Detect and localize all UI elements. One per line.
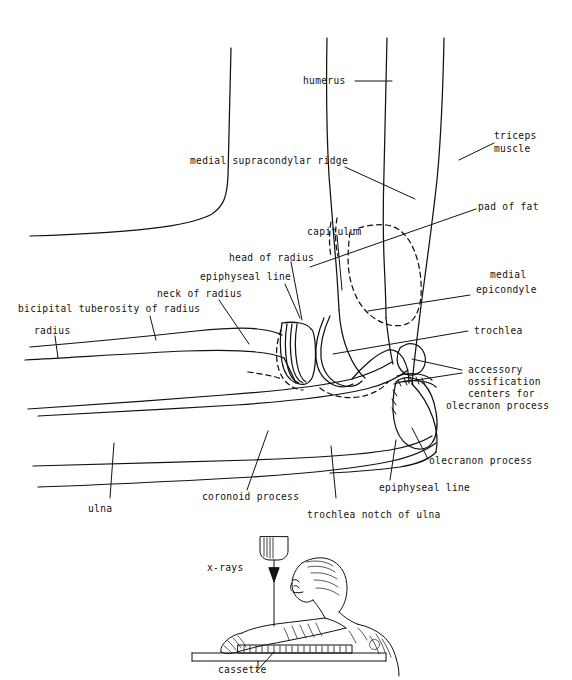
figure-linework	[0, 0, 572, 680]
leader-trochlea	[333, 331, 468, 354]
label-epiphyseal-line-upper: epiphyseal line	[200, 271, 291, 283]
accessory-ossification-center-upper	[397, 344, 425, 376]
distal-humerus-anterior	[339, 310, 365, 378]
central-ray-arrowhead	[269, 568, 279, 582]
leader-ulna	[110, 443, 114, 498]
label-accessory-line2: ossification	[468, 376, 541, 388]
forearm-soft-tissue-upper	[33, 436, 432, 466]
triceps-outer-border	[412, 38, 444, 384]
leader-accessory-1	[412, 359, 462, 370]
leader-trochlea-notch	[331, 446, 336, 498]
leader-pad-of-fat	[310, 209, 476, 267]
patient-clavicle	[325, 618, 346, 628]
patient-neck-back	[339, 612, 357, 624]
patient-face-profile	[292, 563, 313, 602]
label-humerus: humerus	[303, 75, 346, 87]
label-head-of-radius: head of radius	[229, 252, 314, 264]
arm-upper-border	[242, 618, 325, 633]
label-capitulum: capitulum	[307, 226, 362, 238]
leader-medial-supracondylar-ridge	[345, 167, 415, 199]
coronoid-process-outline	[352, 350, 388, 379]
cassette-plate	[238, 645, 352, 653]
label-trochlea-notch-of-ulna: trochlea notch of ulna	[307, 509, 441, 521]
cassette-ridges	[244, 646, 346, 652]
label-coronoid-process: coronoid process	[202, 491, 299, 503]
leader-lines	[55, 81, 494, 498]
xray-tube-hatching	[264, 538, 273, 558]
inset-illustration	[192, 537, 399, 676]
leader-radius	[55, 336, 58, 358]
label-accessory-line4: olecranon process	[446, 400, 549, 412]
label-pad-of-fat: pad of fat	[478, 201, 539, 213]
label-cassette: cassette	[218, 664, 267, 676]
label-medial-epicondyle-line1: medial	[490, 269, 526, 281]
elbow-anatomy-figure: humerus triceps muscle medial supracondy…	[0, 0, 572, 680]
leader-bicipital-tuberosity	[150, 316, 156, 340]
label-trochlea: trochlea	[474, 325, 523, 337]
deltoid-mark	[370, 640, 380, 650]
label-olecranon-process: olecranon process	[429, 455, 532, 467]
patient-hair-strokes	[306, 561, 339, 595]
ulna-posterior-cortex	[38, 370, 408, 416]
hand-outline	[221, 633, 242, 652]
patient-neck-front	[313, 600, 325, 618]
patient-mouth	[293, 592, 303, 593]
label-x-rays: x-rays	[207, 562, 243, 574]
anterior-soft-tissue-border	[30, 48, 231, 236]
leader-neck-of-radius	[219, 300, 249, 344]
arm-lower-border	[260, 628, 346, 646]
leader-triceps	[459, 143, 494, 160]
radius-inferior-cortex	[25, 350, 284, 360]
ulna-anterior-cortex	[28, 362, 392, 409]
label-medial-epicondyle-line2: epicondyle	[476, 284, 537, 296]
humerus-posterior-cortex	[383, 38, 387, 318]
label-triceps-muscle-line2: muscle	[494, 143, 530, 155]
patient-brow	[293, 580, 299, 582]
forearm-soft-tissue-lower	[38, 443, 436, 487]
label-bicipital-tuberosity-of-radius: bicipital tuberosity of radius	[18, 303, 200, 315]
label-accessory-line1: accessory	[468, 364, 523, 376]
label-triceps-muscle-line1: triceps	[494, 130, 537, 142]
olecranon-process-outline	[393, 378, 437, 449]
radius-head-stria-3	[296, 324, 307, 382]
label-accessory-line3: centers for	[468, 388, 535, 400]
patient-torso-side	[396, 658, 399, 676]
label-radius: radius	[34, 325, 70, 337]
label-medial-supracondylar-ridge: medial supracondylar ridge	[190, 155, 348, 167]
patient-head-back	[302, 558, 347, 612]
patient-eye	[294, 586, 299, 588]
label-neck-of-radius: neck of radius	[157, 288, 242, 300]
leader-epiphyseal-line-upper	[285, 284, 300, 318]
label-ulna: ulna	[88, 503, 112, 515]
label-epiphyseal-line-lower: epiphyseal line	[379, 482, 470, 494]
